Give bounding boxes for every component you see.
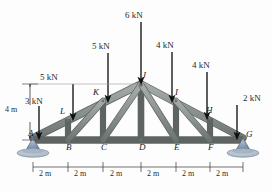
height-dimension-label: 4 m bbox=[5, 106, 17, 114]
node-label-E: E bbox=[174, 143, 180, 152]
node-label-A: A bbox=[28, 129, 34, 138]
load-label-G: 2 kN bbox=[243, 94, 261, 103]
span-segment-label-3: 2 m bbox=[110, 170, 122, 178]
node-label-G: G bbox=[246, 130, 253, 139]
node-label-I: I bbox=[175, 88, 178, 97]
node-label-C: C bbox=[101, 143, 107, 152]
span-segment-label-4: 2 m bbox=[147, 170, 159, 178]
node-label-J: J bbox=[142, 71, 146, 80]
node-label-K: K bbox=[93, 88, 99, 97]
truss-diagram-figure: 3 kN 5 kN 5 kN 6 kN 4 kN 4 kN 2 kN A B C… bbox=[0, 0, 272, 191]
load-label-I: 4 kN bbox=[156, 41, 174, 50]
span-dimension-line bbox=[33, 162, 243, 172]
span-segment-label-2: 2 m bbox=[74, 170, 86, 178]
load-label-J: 6 kN bbox=[125, 11, 143, 20]
node-label-H: H bbox=[206, 106, 213, 115]
node-label-L: L bbox=[60, 107, 65, 116]
node-label-B: B bbox=[66, 143, 72, 152]
span-segment-label-1: 2 m bbox=[39, 170, 51, 178]
load-label-K: 5 kN bbox=[92, 42, 110, 51]
load-label-H: 4 kN bbox=[192, 61, 210, 70]
load-label-L: 5 kN bbox=[40, 73, 58, 82]
node-label-F: F bbox=[208, 143, 214, 152]
load-label-A: 3 kN bbox=[25, 97, 43, 106]
span-segment-label-5: 2 m bbox=[182, 170, 194, 178]
span-segment-label-6: 2 m bbox=[216, 170, 228, 178]
node-label-D: D bbox=[139, 143, 146, 152]
